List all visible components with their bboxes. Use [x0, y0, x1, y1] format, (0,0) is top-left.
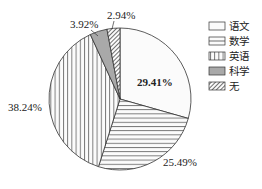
- legend-item-yingyu: 英语: [209, 50, 250, 62]
- slice-label-kexue: 3.92%: [70, 18, 98, 30]
- legend-swatch-vertical: [209, 52, 225, 60]
- legend-label: 无: [229, 80, 240, 92]
- legend-label: 数学: [229, 35, 249, 47]
- slice-label-shuxue: 25.49%: [163, 156, 197, 168]
- legend-label: 语文: [229, 20, 250, 32]
- pie-chart: 29.41% 25.49% 38.24% 3.92% 2.94% 语文 数学 英…: [0, 0, 262, 189]
- leader-line-wu: [112, 21, 114, 29]
- legend: 语文 数学 英语 科学 无: [209, 20, 250, 92]
- legend-swatch-gray: [209, 67, 225, 75]
- legend-item-yuwen: 语文: [209, 20, 250, 32]
- legend-item-wu: 无: [209, 80, 240, 92]
- legend-label: 科学: [229, 65, 249, 77]
- slice-label-yingyu: 38.24%: [8, 101, 42, 113]
- pie-slices: [49, 28, 191, 170]
- legend-swatch-blank: [209, 22, 225, 30]
- legend-item-kexue: 科学: [209, 65, 249, 77]
- slice-label-yuwen: 29.41%: [137, 76, 173, 88]
- slice-label-wu: 2.94%: [107, 9, 135, 21]
- legend-swatch-diagonal: [209, 82, 225, 90]
- legend-item-shuxue: 数学: [209, 35, 249, 47]
- legend-label: 英语: [229, 50, 250, 62]
